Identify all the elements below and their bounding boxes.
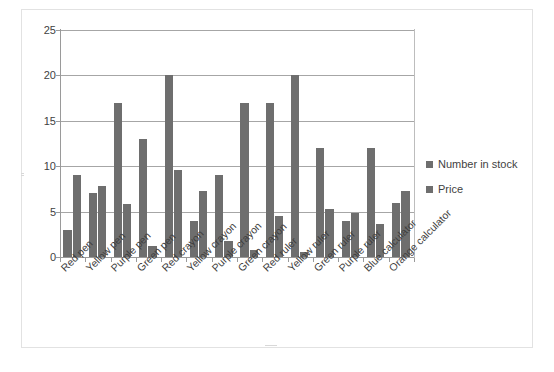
y-axis: 0510152025 bbox=[0, 0, 56, 372]
legend-swatch-icon bbox=[426, 186, 433, 193]
bar-price[interactable] bbox=[98, 186, 106, 257]
plot-right-border bbox=[414, 29, 415, 258]
bar-number-in-stock[interactable] bbox=[291, 75, 299, 257]
y-tick-label: 5 bbox=[4, 206, 56, 217]
bar-price[interactable] bbox=[73, 175, 81, 257]
legend-item-number-in-stock[interactable]: Number in stock bbox=[426, 158, 530, 170]
bar-group bbox=[237, 30, 262, 257]
bar-number-in-stock[interactable] bbox=[392, 203, 400, 257]
bar-number-in-stock[interactable] bbox=[342, 221, 350, 257]
bar-group bbox=[161, 30, 186, 257]
bar-price[interactable] bbox=[376, 224, 384, 257]
y-tick-label: 10 bbox=[4, 161, 56, 172]
bar-number-in-stock[interactable] bbox=[89, 193, 97, 257]
bar-price[interactable] bbox=[224, 241, 232, 257]
bar-group bbox=[363, 30, 388, 257]
bar-price[interactable] bbox=[351, 213, 359, 257]
legend-label: Price bbox=[438, 183, 463, 195]
x-tick-mark bbox=[363, 258, 364, 262]
chart-legend: Number in stock Price bbox=[426, 158, 530, 208]
bar-number-in-stock[interactable] bbox=[240, 103, 248, 257]
bar-number-in-stock[interactable] bbox=[215, 175, 223, 257]
bar-group bbox=[288, 30, 313, 257]
bar-group bbox=[338, 30, 363, 257]
bar-price[interactable] bbox=[401, 191, 409, 257]
bar-group bbox=[262, 30, 287, 257]
x-tick-mark bbox=[288, 258, 289, 262]
x-tick-mark bbox=[85, 258, 86, 262]
bar-price[interactable] bbox=[325, 209, 333, 257]
bar-number-in-stock[interactable] bbox=[266, 103, 274, 257]
bar-number-in-stock[interactable] bbox=[114, 103, 122, 257]
bar-number-in-stock[interactable] bbox=[316, 148, 324, 257]
x-tick-mark bbox=[262, 258, 263, 262]
x-tick-mark bbox=[60, 258, 61, 262]
bar-number-in-stock[interactable] bbox=[367, 148, 375, 257]
x-tick-mark bbox=[313, 258, 314, 262]
x-tick-mark bbox=[414, 258, 415, 262]
bar-price[interactable] bbox=[148, 246, 156, 257]
legend-label: Number in stock bbox=[438, 158, 517, 170]
x-tick-mark bbox=[161, 258, 162, 262]
bar-group bbox=[313, 30, 338, 257]
bar-group bbox=[212, 30, 237, 257]
bar-number-in-stock[interactable] bbox=[63, 230, 71, 257]
bar-price[interactable] bbox=[174, 170, 182, 257]
bar-number-in-stock[interactable] bbox=[139, 139, 147, 257]
x-tick-mark bbox=[212, 258, 213, 262]
x-tick-mark bbox=[237, 258, 238, 262]
y-tick-label: 25 bbox=[4, 25, 56, 36]
legend-item-price[interactable]: Price bbox=[426, 183, 530, 195]
bar-group bbox=[85, 30, 110, 257]
bar-price[interactable] bbox=[300, 252, 308, 257]
bar-number-in-stock[interactable] bbox=[165, 75, 173, 257]
x-tick-mark bbox=[389, 258, 390, 262]
x-tick-mark bbox=[338, 258, 339, 262]
bar-price[interactable] bbox=[123, 204, 131, 257]
plot-area bbox=[60, 30, 414, 257]
bar-number-in-stock[interactable] bbox=[190, 221, 198, 257]
bar-group bbox=[60, 30, 85, 257]
bar-group bbox=[111, 30, 136, 257]
bar-price[interactable] bbox=[275, 216, 283, 257]
x-tick-mark bbox=[111, 258, 112, 262]
y-tick-label: 15 bbox=[4, 115, 56, 126]
bar-group bbox=[186, 30, 211, 257]
bar-price[interactable] bbox=[199, 191, 207, 257]
bar-price[interactable] bbox=[250, 250, 258, 257]
x-tick-mark bbox=[136, 258, 137, 262]
bar-group bbox=[136, 30, 161, 257]
bar-group bbox=[389, 30, 414, 257]
y-tick-label: 0 bbox=[4, 252, 56, 263]
y-tick-label: 20 bbox=[4, 70, 56, 81]
frame-tick-bottom bbox=[265, 345, 277, 346]
legend-swatch-icon bbox=[426, 161, 433, 168]
x-tick-mark bbox=[186, 258, 187, 262]
